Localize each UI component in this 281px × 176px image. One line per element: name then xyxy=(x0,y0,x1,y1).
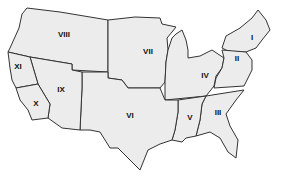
region-label-vii: VII xyxy=(143,47,153,56)
region-i xyxy=(222,10,270,52)
region-iv xyxy=(165,30,224,100)
region-label-x: X xyxy=(33,99,39,108)
region-label-ix: IX xyxy=(57,85,65,94)
region-label-iii: III xyxy=(215,108,222,117)
region-label-xi: XI xyxy=(14,62,22,71)
region-label-iv: IV xyxy=(201,71,209,80)
region-label-vi: VI xyxy=(126,111,134,120)
region-label-i: I xyxy=(251,33,253,42)
region-label-ii: II xyxy=(235,54,239,63)
region-label-v: V xyxy=(187,113,193,122)
region-label-viii: VIII xyxy=(58,30,70,39)
us-regions-map: I II III IV V VI VII VIII IX X XI xyxy=(0,0,281,176)
